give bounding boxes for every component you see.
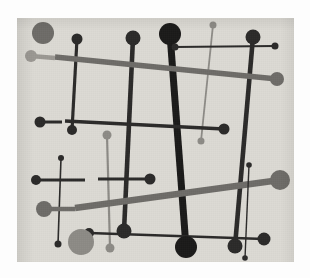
black-dot-right-bottom — [228, 239, 243, 254]
black-dot-horizontal-right — [219, 124, 230, 135]
dark-vertical-thin-left — [58, 158, 61, 244]
gray-dot-diagonal-lower-end — [270, 170, 290, 190]
black-dot-horizontal-left — [35, 117, 46, 128]
black-dot-thin-left-top — [58, 155, 64, 161]
black-dot-right-top — [246, 30, 261, 45]
dark-vertical-right — [235, 37, 253, 246]
black-dot-upper-right-left — [172, 44, 179, 51]
black-dot-thin-right-top — [246, 162, 252, 168]
black-dot-vertical-left-top — [72, 34, 83, 45]
dark-vertical-left — [72, 39, 77, 130]
black-dot-thick-bottom — [175, 236, 197, 258]
black-dot-midline-left — [31, 175, 41, 185]
black-dot-lowerline-right — [258, 233, 271, 246]
black-dot-center-top — [126, 31, 141, 46]
dark-horizontal-long — [65, 121, 224, 129]
gray-dot-diagonal-upper-end — [270, 72, 284, 86]
gray-circle-mid-left — [36, 201, 52, 217]
black-dot-thin-right-bottom — [242, 255, 248, 261]
composition-svg — [17, 18, 294, 262]
dark-horizontal-upper-right — [175, 46, 275, 47]
artwork-frame — [0, 0, 310, 278]
black-dot-thin-left-bottom — [55, 241, 62, 248]
dark-vertical-thin-right — [245, 165, 249, 258]
black-dot-midline-right — [145, 174, 156, 185]
gray-dot-left-upper — [25, 50, 37, 62]
black-dot-thick-top — [159, 23, 181, 45]
gray-diagonal-lower — [75, 180, 280, 208]
gray-vertical-lower — [107, 135, 110, 248]
gray-dot-lower-top — [103, 131, 112, 140]
gray-diagonal-upper — [55, 57, 277, 79]
black-dot-upper-right-right — [272, 43, 279, 50]
big-gray-circle-bottom — [68, 229, 94, 255]
black-dot-center-bottom — [117, 224, 132, 239]
artwork-canvas — [17, 18, 294, 262]
gray-dot-lower-bottom — [106, 244, 115, 253]
big-gray-circle-top-left — [32, 22, 54, 44]
gray-dot-tall-bottom — [198, 138, 205, 145]
strokes-layer — [31, 25, 280, 258]
gray-vertical-tall — [201, 25, 213, 141]
gray-dot-tall-top — [210, 22, 217, 29]
black-dot-vertical-left-bottom — [67, 125, 77, 135]
